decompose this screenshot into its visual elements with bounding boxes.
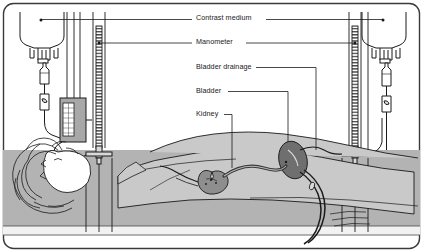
label-bladder-drainage: Bladder drainage bbox=[196, 63, 252, 70]
roller-clamp-left bbox=[40, 94, 49, 110]
medical-illustration: Contrast medium Manometer Bladder draina… bbox=[0, 0, 423, 252]
kidney-organ bbox=[198, 170, 228, 194]
infusion-pump-box bbox=[60, 98, 86, 142]
label-contrast-medium: Contrast medium bbox=[196, 14, 251, 21]
roller-clamp-right bbox=[382, 96, 391, 112]
label-kidney: Kidney bbox=[196, 110, 218, 117]
bag-hanger-dot-right bbox=[382, 19, 385, 22]
bag-hanger-dot-left bbox=[40, 19, 43, 22]
label-bladder: Bladder bbox=[196, 87, 221, 94]
label-manometer: Manometer bbox=[196, 38, 233, 45]
